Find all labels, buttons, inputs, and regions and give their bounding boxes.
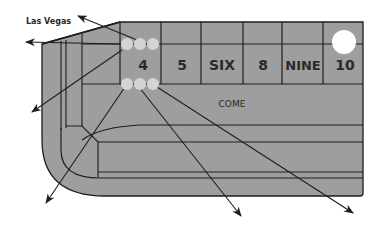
marker-upper [134,38,146,50]
marker-lower [134,78,146,90]
place-number-5: 5 [177,57,187,73]
las-vegas-label: Las Vegas [26,17,71,26]
come-label: COME [219,99,246,109]
marker-upper [147,38,159,50]
marker-lower [147,78,159,90]
place-number-8: 8 [258,57,268,73]
table-felt [42,22,363,196]
place-number-nine: NINE [285,58,320,73]
place-number-six: SIX [209,57,235,73]
marker-lower [121,78,133,90]
marker-upper [121,38,133,50]
place-number-10: 10 [335,57,355,73]
place-number-4: 4 [138,57,148,73]
craps-table-diagram: 4 5 SIX 8 NINE 10 COME Las Vegas [0,0,370,230]
puck-icon [332,30,356,54]
